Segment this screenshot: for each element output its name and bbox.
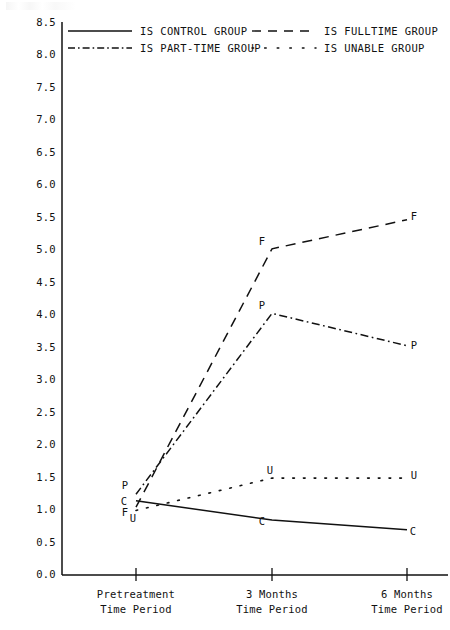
x-tick-label-six-months-line2: Time Period bbox=[371, 603, 443, 615]
chart-legend: IS CONTROL GROUP IS FULLTIME GROUP IS PA… bbox=[68, 25, 438, 54]
y-tick-label: 3.5 bbox=[36, 341, 56, 353]
y-tick-label: 0.0 bbox=[36, 568, 56, 580]
y-tick-label: 7.5 bbox=[36, 81, 56, 93]
legend-label-control: IS CONTROL GROUP bbox=[140, 25, 248, 37]
line-chart: IS CONTROL GROUP IS FULLTIME GROUP IS PA… bbox=[0, 0, 450, 630]
y-tick-label: 5.5 bbox=[36, 211, 56, 223]
y-tick-label: 6.5 bbox=[36, 146, 56, 158]
y-tick-label: 1.0 bbox=[36, 503, 56, 515]
y-tick-label: 5.0 bbox=[36, 243, 56, 255]
y-axis-ticks: 8.5 8.0 7.5 7.0 6.5 6.0 5.5 5.0 4.5 4.0 … bbox=[36, 16, 56, 580]
y-tick-label: 4.5 bbox=[36, 276, 56, 288]
y-tick-label: 3.0 bbox=[36, 373, 56, 385]
legend-label-fulltime: IS FULLTIME GROUP bbox=[324, 25, 438, 37]
point-label: P bbox=[259, 299, 265, 311]
y-tick-label: 6.0 bbox=[36, 178, 56, 190]
point-label: C bbox=[259, 515, 265, 527]
series-point-labels: CCCFFFPPPUUU bbox=[121, 210, 417, 537]
x-axis-labels: Pretreatment Time Period 3 Months Time P… bbox=[97, 588, 443, 615]
legend-label-part-time: IS PART-TIME GROUP bbox=[140, 42, 261, 54]
point-label: C bbox=[410, 525, 416, 537]
series-line-control bbox=[136, 501, 407, 530]
point-label: P bbox=[411, 339, 417, 351]
x-tick-label-pretreatment-line1: Pretreatment bbox=[97, 588, 175, 600]
y-tick-label: 2.5 bbox=[36, 406, 56, 418]
y-tick-label: 0.5 bbox=[36, 536, 56, 548]
x-tick-label-pretreatment-line2: Time Period bbox=[100, 603, 172, 615]
y-tick-label: 2.0 bbox=[36, 438, 56, 450]
point-label: P bbox=[122, 479, 128, 491]
point-label: F bbox=[259, 235, 265, 247]
series-control bbox=[136, 501, 407, 530]
y-tick-label: 7.0 bbox=[36, 113, 56, 125]
legend-label-unable: IS UNABLE GROUP bbox=[324, 42, 425, 54]
y-tick-label: 8.5 bbox=[36, 16, 56, 28]
series-unable bbox=[136, 478, 407, 510]
x-tick-label-six-months-line1: 6 Months bbox=[381, 588, 433, 600]
x-tick-label-three-months-line1: 3 Months bbox=[246, 588, 298, 600]
y-tick-label: 8.0 bbox=[36, 48, 56, 60]
point-label: U bbox=[130, 512, 136, 524]
point-label: U bbox=[267, 464, 273, 476]
y-tick-label: 1.5 bbox=[36, 471, 56, 483]
point-label: U bbox=[411, 469, 417, 481]
x-tick-label-three-months-line2: Time Period bbox=[236, 603, 308, 615]
point-label: F bbox=[122, 506, 128, 518]
series-line-unable bbox=[136, 478, 407, 510]
point-label: C bbox=[121, 495, 127, 507]
point-label: F bbox=[411, 210, 417, 222]
y-tick-label: 4.0 bbox=[36, 308, 56, 320]
